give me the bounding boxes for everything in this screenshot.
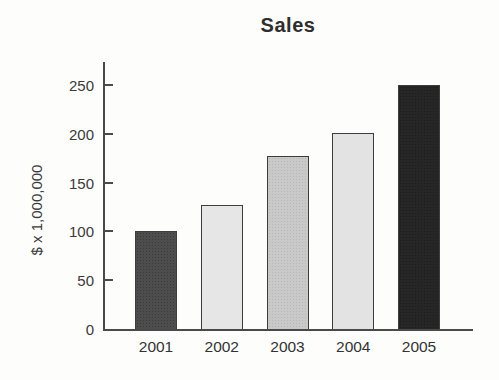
y-tick-mark xyxy=(105,230,113,232)
x-tick-label-2003: 2003 xyxy=(270,338,304,356)
y-tick-mark xyxy=(105,279,113,281)
x-tick-label-2005: 2005 xyxy=(402,338,436,356)
y-tick-label: 250 xyxy=(69,77,94,94)
bar-2002 xyxy=(201,205,243,329)
y-tick-label: 100 xyxy=(69,223,94,240)
y-axis-title: $ x 1,000,000 xyxy=(28,165,45,256)
y-tick-label: 150 xyxy=(69,174,94,191)
y-tick-label: 200 xyxy=(69,125,94,142)
y-tick-label: 50 xyxy=(77,272,94,289)
bar-2003 xyxy=(267,156,309,329)
x-tick-label-2002: 2002 xyxy=(205,338,239,356)
sales-bar-chart-figure: Sales $ x 1,000,000 05010015020025020012… xyxy=(0,0,499,380)
bar-2001 xyxy=(135,231,177,329)
x-tick-label-2004: 2004 xyxy=(336,338,370,356)
bar-2004 xyxy=(332,133,374,329)
y-tick-mark xyxy=(105,133,113,135)
bar-2005 xyxy=(398,85,440,329)
y-tick-label: 0 xyxy=(86,321,94,338)
x-tick-label-2001: 2001 xyxy=(139,338,173,356)
y-tick-mark xyxy=(105,182,113,184)
plot-area: 05010015020025020012002200320042005 xyxy=(103,62,473,331)
y-tick-mark xyxy=(105,84,113,86)
chart-title: Sales xyxy=(103,14,473,37)
